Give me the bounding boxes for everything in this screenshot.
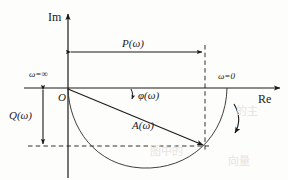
- nyquist-diagram: 的主 图中的 向量 Im Re O ω=∞ ω=0 P(ω) Q(ω) A(ω)…: [0, 0, 288, 180]
- omega-zero-label: ω=0: [218, 72, 235, 81]
- omega-infinity-label: ω=∞: [29, 70, 48, 79]
- phi-omega-angle-group: [131, 89, 133, 99]
- dashed-guide-group: [28, 45, 209, 150]
- real-axis-label: Re: [258, 93, 271, 105]
- imaginary-axis-label: Im: [48, 11, 61, 23]
- a-omega-label: A(ω): [132, 120, 154, 131]
- a-omega-vector-group: [68, 89, 203, 145]
- a-omega-vector: [68, 89, 203, 145]
- direction-arrow[interactable]: [234, 104, 239, 133]
- origin-label: O: [58, 92, 66, 103]
- p-omega-label: P(ω): [122, 38, 144, 49]
- q-omega-label: Q(ω): [9, 110, 32, 121]
- phase-angle-arc-arrow: [131, 89, 133, 99]
- phi-omega-label: φ(ω): [138, 90, 159, 101]
